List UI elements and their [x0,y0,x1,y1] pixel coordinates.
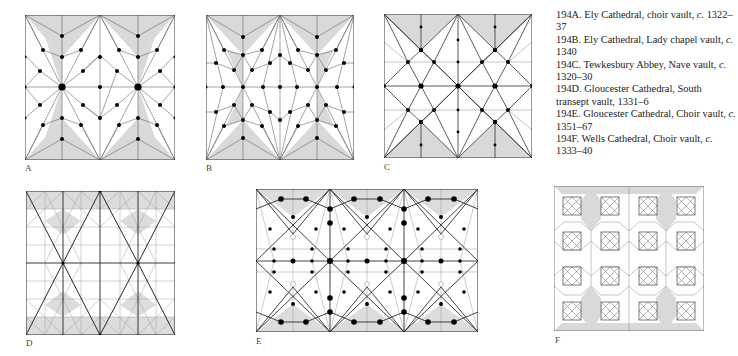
panel-label-c: C [384,162,390,172]
tewkesbury-nave-vault-diagram [384,14,532,158]
ely-choir-vault-diagram [25,15,175,160]
caption-194e: 194E. Gloucester Cathedral, Choir vault,… [556,108,736,133]
caption-194f: 194F. Wells Cathedral, Choir vault, c. 1… [556,133,736,158]
panel-label-d: D [26,338,33,348]
vault-plan-f [554,186,704,331]
panel-label-a: A [25,163,32,173]
caption-194b: 194B. Ely Cathedral, Lady chapel vault, … [556,34,736,59]
vault-plan-b [206,15,354,160]
panel-label-e: E [256,336,262,346]
vault-plan-c [384,14,532,158]
panel-label-b: B [206,163,212,173]
vault-plan-a [25,15,175,160]
caption-194d: 194D. Gloucester Cathedral, South transe… [556,83,736,108]
ely-lady-chapel-vault-diagram [206,15,354,160]
panel-label-f: F [555,335,560,345]
gloucester-south-transept-vault-diagram [26,191,175,335]
caption-194c: 194C. Tewkesbury Abbey, Nave vault, c. 1… [556,59,736,84]
gloucester-choir-vault-diagram [256,189,478,332]
vault-plan-d [26,191,175,335]
caption-194a: 194A. Ely Cathedral, choir vault, c. 132… [556,9,736,34]
figure-caption: 194A. Ely Cathedral, choir vault, c. 132… [556,9,736,158]
vault-plan-e [256,189,478,332]
wells-choir-vault-diagram [554,186,704,331]
